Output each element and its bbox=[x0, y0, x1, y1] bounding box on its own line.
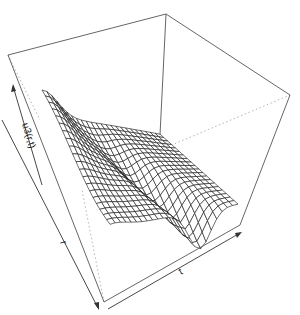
surface-mesh bbox=[42, 90, 238, 249]
r-axis-label: r bbox=[58, 239, 70, 246]
t-axis-arrow bbox=[108, 232, 242, 309]
arrow-head-icon bbox=[11, 84, 16, 92]
arrow-head-icon bbox=[94, 302, 99, 310]
arrow-head-icon bbox=[235, 232, 242, 238]
surface-plot: u3(r,t) r t bbox=[0, 0, 300, 315]
